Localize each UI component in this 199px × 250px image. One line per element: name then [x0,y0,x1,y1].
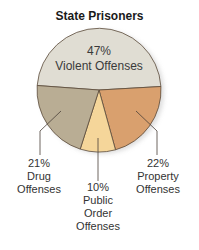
label-violent-pct: 47% [49,44,149,59]
label-property: 22% Property Offenses [128,157,188,196]
label-public-order-line1: Public [68,194,128,207]
label-property-pct: 22% [128,157,188,170]
label-drug: 21% Drug Offenses [9,157,69,196]
label-drug-pct: 21% [9,157,69,170]
label-public-order-line3: Offenses [68,220,128,233]
label-drug-line1: Drug [9,170,69,183]
label-violent: 47% Violent Offenses [49,44,149,74]
label-public-order-line2: Order [68,207,128,220]
label-public-order-pct: 10% [68,181,128,194]
label-violent-name: Violent Offenses [49,59,149,74]
label-drug-line2: Offenses [9,183,69,196]
label-property-line1: Property [128,170,188,183]
label-public-order: 10% Public Order Offenses [68,181,128,233]
label-property-line2: Offenses [128,183,188,196]
